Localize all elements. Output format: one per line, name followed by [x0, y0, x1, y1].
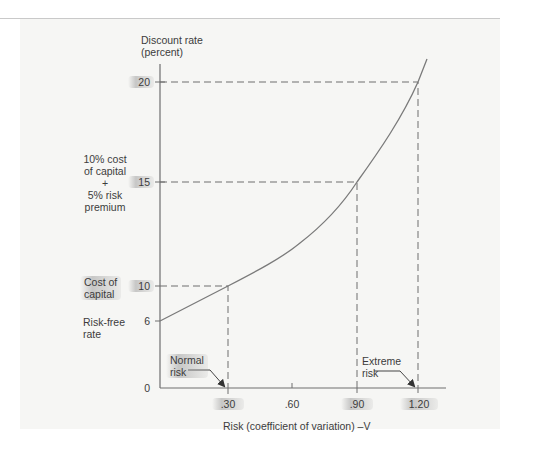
- x-axis-title: Risk (coefficient of variation) –V: [223, 420, 370, 432]
- y-tick-label-10: 10: [128, 280, 154, 292]
- x-tick-label-30: .30: [212, 398, 244, 410]
- y-axis-title: Discount rate (percent): [141, 34, 203, 58]
- x-tick-label-120: 1.20: [400, 398, 438, 410]
- discount-rate-curve: [160, 59, 427, 321]
- risk-free-line-1: Risk-free: [83, 316, 125, 328]
- chart-plot: [0, 0, 533, 461]
- y-tick-label-20: 20: [128, 76, 154, 88]
- extreme-risk-line-2: risk: [362, 367, 401, 379]
- normal-risk-line-2: risk: [170, 366, 204, 378]
- extreme-risk-annotation: Extreme risk: [362, 355, 401, 379]
- y-tick-label-0: 0: [136, 382, 150, 394]
- normal-risk-annotation: Normal risk: [166, 354, 208, 378]
- premium-line-4: 5% risk: [74, 189, 136, 201]
- cost-of-capital-line-2: capital: [84, 288, 117, 300]
- premium-annotation: 10% cost of capital + 5% risk premium: [74, 153, 136, 213]
- y-axis-title-line-2: (percent): [141, 46, 203, 58]
- y-tick-label-6: 6: [136, 315, 150, 327]
- premium-line-5: premium: [74, 201, 136, 213]
- premium-line-1: 10% cost: [74, 153, 136, 165]
- risk-free-annotation: Risk-free rate: [83, 316, 125, 340]
- premium-line-3: +: [74, 177, 136, 189]
- cost-of-capital-line-1: Cost of: [84, 276, 117, 288]
- ref-line-extreme-risk: [160, 82, 418, 388]
- risk-free-line-2: rate: [83, 328, 125, 340]
- cost-of-capital-annotation: Cost of capital: [80, 276, 121, 300]
- normal-risk-line-1: Normal: [170, 354, 204, 366]
- x-tick-label-90: .90: [341, 398, 373, 410]
- premium-line-2: of capital: [74, 165, 136, 177]
- extreme-risk-line-1: Extreme: [362, 355, 401, 367]
- y-axis-title-line-1: Discount rate: [141, 34, 203, 46]
- x-tick-label-60: .60: [280, 398, 304, 410]
